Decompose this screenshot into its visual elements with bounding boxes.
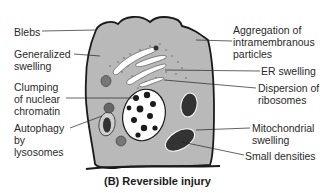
reversible-injury-diagram: Blebs Generalized swelling Clumping of n… [0, 0, 329, 193]
label-small-densities: Small densities [245, 150, 316, 162]
label-aggregation: Aggregation of intramembranous particles [233, 24, 315, 60]
label-autophagy: Autophagy by lysosomes [14, 122, 64, 158]
label-blebs: Blebs [14, 26, 40, 38]
label-er-swelling: ER swelling [261, 65, 316, 77]
lysosome [101, 76, 111, 87]
label-clumping-chromatin: Clumping of nuclear chromatin [14, 81, 60, 117]
figure-caption: (B) Reversible injury [104, 175, 211, 187]
label-generalized-swelling: Generalized swelling [14, 48, 71, 72]
intramembranous-aggregate [154, 46, 159, 51]
label-mitochondrial-swelling: Mitochondrial swelling [252, 122, 314, 146]
label-dispersion-ribosomes: Dispersion of ribosomes [258, 82, 319, 106]
small-density [116, 136, 126, 146]
